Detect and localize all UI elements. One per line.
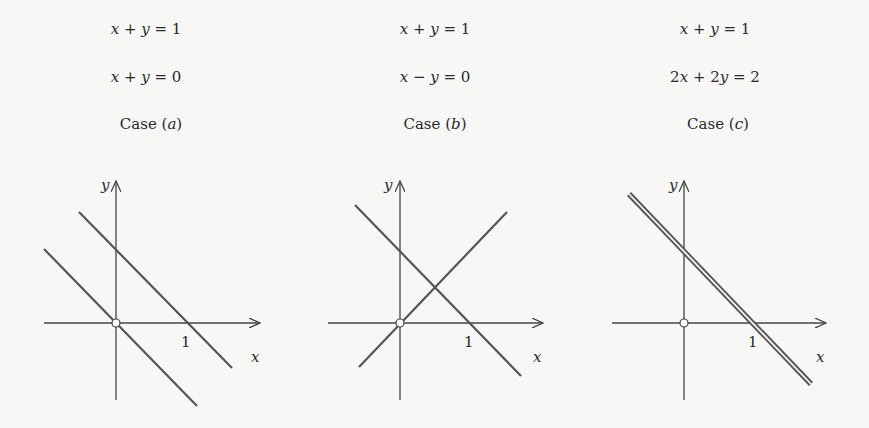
case-c-plot: 1 x y xyxy=(612,176,826,400)
case-b-line-x-minus-y-eq-0 xyxy=(359,212,507,367)
case-b-y-label: y xyxy=(383,176,393,194)
case-a-tick-1: 1 xyxy=(181,333,191,351)
case-a-x-label: x xyxy=(251,348,260,366)
case-a-origin-marker xyxy=(112,319,120,327)
case-a-plot: 1 x y xyxy=(44,176,260,406)
case-c-tick-1: 1 xyxy=(748,333,758,351)
case-a-line-x-plus-y-eq-0 xyxy=(44,249,197,406)
case-b-x-label: x xyxy=(533,348,542,366)
case-b-tick-1: 1 xyxy=(464,333,474,351)
case-b-plot: 1 x y xyxy=(328,176,543,400)
case-b-origin-marker xyxy=(396,319,404,327)
case-a-y-label: y xyxy=(100,176,110,194)
case-c-x-label: x xyxy=(816,348,825,366)
case-c-origin-marker xyxy=(680,319,688,327)
plots-canvas: 1 x y 1 x y 1 x y xyxy=(0,0,869,428)
case-c-y-label: y xyxy=(668,176,678,194)
case-b-line-x-plus-y-eq-1 xyxy=(355,205,521,376)
case-c-coincident-lines-gap xyxy=(629,194,811,384)
case-a-line-x-plus-y-eq-1 xyxy=(79,212,232,368)
